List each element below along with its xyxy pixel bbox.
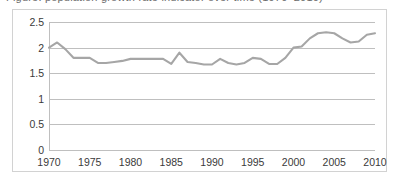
gridline-y-0 [49, 150, 375, 151]
x-tick-label-1975: 1975 [78, 156, 101, 168]
x-tick-label-1980: 1980 [119, 156, 142, 168]
x-tick-label-1995: 1995 [241, 156, 264, 168]
plot-area: 00.511.522.5 197019751980198519901995200… [49, 22, 375, 150]
x-tick-label-2005: 2005 [323, 156, 346, 168]
series-line-chart [49, 22, 375, 150]
clipped-chart-title: Figure: population growth rate indicator… [0, 0, 404, 9]
y-tick-label-2.5: 2.5 [29, 16, 44, 28]
chart-plot-frame: 00.511.522.5 197019751980198519901995200… [12, 9, 387, 172]
series-line-path [49, 32, 375, 64]
chart-figure: Figure: population growth rate indicator… [0, 0, 404, 189]
x-tick-label-1985: 1985 [160, 156, 183, 168]
x-tick-label-1990: 1990 [200, 156, 223, 168]
y-tick-label-2: 2 [38, 42, 44, 54]
y-tick-label-0.5: 0.5 [29, 118, 44, 130]
y-tick-label-1: 1 [38, 93, 44, 105]
x-tick-label-2010: 2010 [363, 156, 386, 168]
x-tick-label-1970: 1970 [37, 156, 60, 168]
chart-title-text: Figure: population growth rate indicator… [6, 0, 323, 3]
y-tick-label-0: 0 [38, 144, 44, 156]
y-tick-label-1.5: 1.5 [29, 67, 44, 79]
x-tick-label-2000: 2000 [282, 156, 305, 168]
